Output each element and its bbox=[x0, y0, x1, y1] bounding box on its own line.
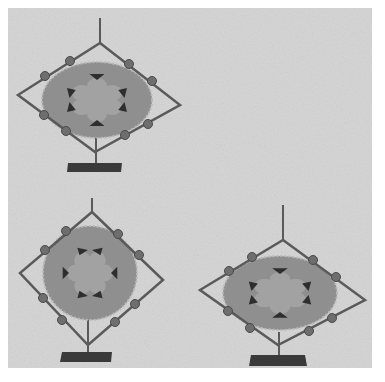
base bbox=[60, 352, 112, 362]
base bbox=[67, 163, 122, 172]
photo-stage bbox=[0, 0, 385, 382]
base bbox=[249, 355, 307, 366]
photo-canvas bbox=[0, 0, 385, 382]
